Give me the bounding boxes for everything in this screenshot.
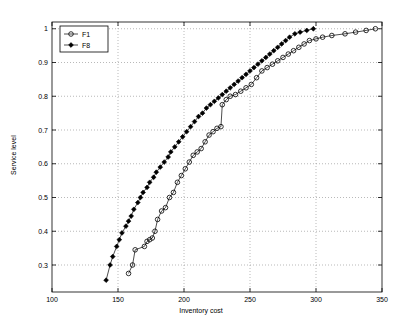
svg-text:350: 350 xyxy=(376,296,388,303)
svg-text:1: 1 xyxy=(44,25,48,32)
x-axis-label: Inventory cost xyxy=(0,307,402,314)
legend-label-F8: F8 xyxy=(82,42,90,49)
legend: F1F8 xyxy=(60,26,108,52)
y-axis-label: Service level xyxy=(10,135,17,175)
svg-text:0.5: 0.5 xyxy=(38,194,48,201)
svg-text:0.7: 0.7 xyxy=(38,127,48,134)
svg-text:0.6: 0.6 xyxy=(38,160,48,167)
svg-text:0.9: 0.9 xyxy=(38,59,48,66)
svg-text:200: 200 xyxy=(178,296,190,303)
figure: 1001502002503003500.30.40.50.60.70.80.91… xyxy=(0,0,402,325)
svg-text:100: 100 xyxy=(46,296,58,303)
svg-text:300: 300 xyxy=(310,296,322,303)
svg-text:0.3: 0.3 xyxy=(38,262,48,269)
svg-text:150: 150 xyxy=(112,296,124,303)
svg-text:0.4: 0.4 xyxy=(38,228,48,235)
chart-canvas: 1001502002503003500.30.40.50.60.70.80.91… xyxy=(0,0,402,325)
svg-text:0.8: 0.8 xyxy=(38,93,48,100)
svg-text:250: 250 xyxy=(244,296,256,303)
legend-label-F1: F1 xyxy=(82,31,90,38)
